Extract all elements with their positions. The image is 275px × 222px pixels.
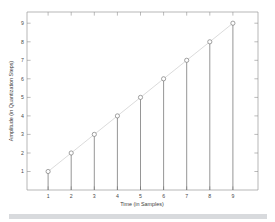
axes-spines [27, 12, 258, 190]
x-tick-label: 9 [231, 193, 234, 199]
data-point-2 [69, 151, 73, 155]
data-point-7 [185, 58, 189, 62]
x-tick-label: 7 [185, 193, 188, 199]
data-point-4 [115, 114, 119, 118]
x-tick-label: 2 [70, 193, 73, 199]
x-axis-title: Time (in Samples) [120, 201, 164, 207]
data-point-3 [92, 132, 96, 136]
y-tick-label: 6 [21, 76, 24, 82]
x-tick-label: 5 [139, 193, 142, 199]
x-tick-label: 3 [93, 193, 96, 199]
y-tick-label: 4 [21, 113, 24, 119]
y-tick-label: 3 [21, 131, 24, 137]
data-point-5 [138, 95, 142, 99]
x-tick-label: 8 [208, 193, 211, 199]
y-tick-label: 1 [21, 168, 24, 174]
data-point-1 [46, 169, 50, 173]
data-point-9 [231, 21, 235, 25]
x-tick-labels: 1 2 3 4 5 6 7 8 9 [47, 193, 235, 199]
stems [48, 23, 233, 190]
x-tick-label: 1 [47, 193, 50, 199]
y-tick-labels: 1 2 3 4 5 6 7 8 9 [21, 20, 24, 174]
y-axis-title: Amplitude (in Quantization Steps) [8, 61, 14, 142]
data-point-6 [162, 77, 166, 81]
y-tick-label: 9 [21, 20, 24, 26]
bottom-gray-band [9, 214, 267, 219]
figure-canvas: 1 2 3 4 5 6 7 8 9 1 2 3 4 5 6 7 8 9 Time… [0, 0, 275, 222]
data-point-8 [208, 40, 212, 44]
stem-plot: 1 2 3 4 5 6 7 8 9 1 2 3 4 5 6 7 8 9 Time… [0, 0, 275, 222]
y-tick-label: 2 [21, 150, 24, 156]
x-tick-label: 4 [116, 193, 119, 199]
y-tick-label: 7 [21, 57, 24, 63]
x-tick-label: 6 [162, 193, 165, 199]
y-tick-label: 8 [21, 39, 24, 45]
y-tick-label: 5 [21, 94, 24, 100]
